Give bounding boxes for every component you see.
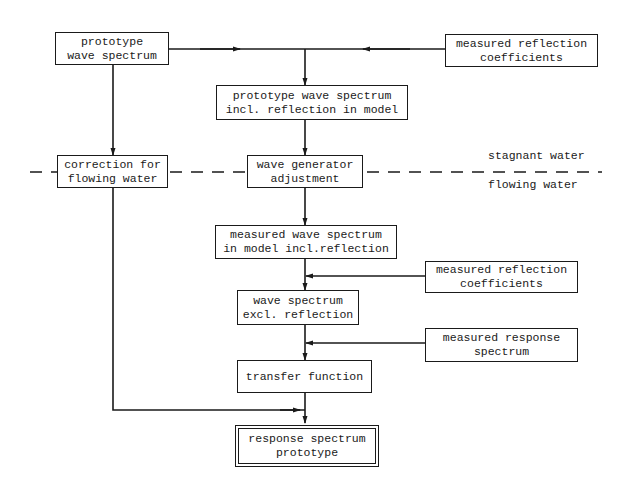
node-text-line: wave spectrum bbox=[67, 49, 157, 63]
node-text-line: coefficients bbox=[480, 51, 563, 65]
node-text-line: measured reflection bbox=[436, 263, 567, 277]
node-text-line: flowing water bbox=[68, 172, 158, 186]
flowchart-canvas: prototype wave spectrum measured reflect… bbox=[0, 0, 623, 489]
node-transfer-function: transfer function bbox=[237, 360, 372, 393]
node-text-line: prototype bbox=[276, 446, 338, 460]
node-text-line: in model incl.reflection bbox=[223, 242, 389, 256]
node-text-line: response spectrum bbox=[248, 432, 365, 446]
node-text-line: measured response bbox=[443, 331, 560, 345]
node-text-line: adjustment bbox=[270, 172, 339, 186]
node-text-line: prototype bbox=[81, 35, 143, 49]
node-text-line: wave spectrum bbox=[253, 294, 343, 308]
node-text-line: incl. reflection in model bbox=[226, 103, 399, 117]
node-prototype-wave-spectrum: prototype wave spectrum bbox=[55, 32, 169, 65]
node-text-line: coefficients bbox=[460, 277, 543, 291]
node-text-line: transfer function bbox=[246, 370, 363, 384]
node-text-line: measured reflection bbox=[456, 37, 587, 51]
node-prototype-spectrum-incl-reflection: prototype wave spectrum incl. reflection… bbox=[216, 85, 408, 120]
node-response-spectrum-prototype: response spectrum prototype bbox=[238, 428, 376, 464]
node-wave-generator-adjustment: wave generator adjustment bbox=[247, 155, 363, 188]
node-wave-spectrum-excl-reflection: wave spectrum excl. reflection bbox=[237, 290, 359, 325]
node-measured-wave-spectrum-in-model: measured wave spectrum in model incl.ref… bbox=[215, 225, 397, 259]
node-text-line: excl. reflection bbox=[243, 308, 353, 322]
node-text-line: prototype wave spectrum bbox=[233, 89, 392, 103]
node-measured-reflection-coefficients-mid: measured reflection coefficients bbox=[425, 261, 578, 293]
node-text-line: wave generator bbox=[257, 158, 354, 172]
node-measured-response-spectrum: measured response spectrum bbox=[425, 328, 578, 362]
stagnant-water-label: stagnant water bbox=[488, 149, 585, 163]
node-correction-for-flowing-water: correction for flowing water bbox=[57, 155, 168, 188]
node-text-line: spectrum bbox=[474, 345, 529, 359]
node-text-line: measured wave spectrum bbox=[230, 228, 382, 242]
node-text-line: correction for bbox=[64, 158, 161, 172]
flowing-water-label: flowing water bbox=[488, 178, 578, 192]
node-measured-reflection-coefficients-top: measured reflection coefficients bbox=[445, 34, 598, 67]
